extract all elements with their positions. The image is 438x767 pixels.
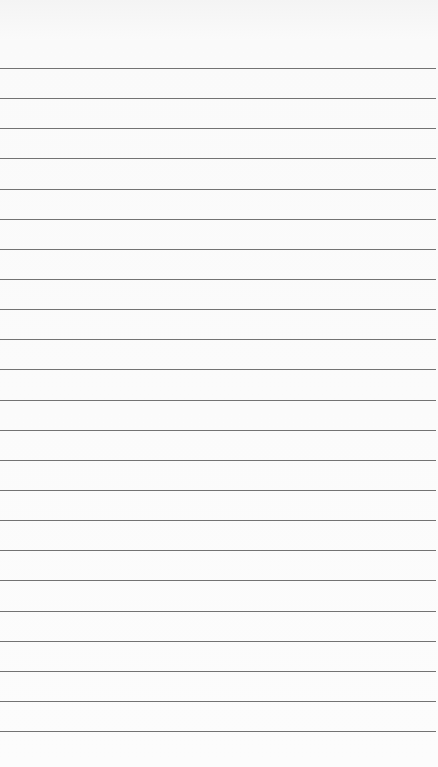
ruled-line	[0, 550, 436, 551]
ruled-line	[0, 158, 436, 159]
ruled-line	[0, 611, 436, 612]
ruled-line	[0, 701, 436, 702]
ruled-line	[0, 309, 436, 310]
ruled-line	[0, 400, 436, 401]
ruled-line	[0, 490, 436, 491]
lined-paper	[0, 0, 438, 767]
ruled-line	[0, 460, 436, 461]
ruled-line	[0, 731, 436, 732]
ruled-line	[0, 128, 436, 129]
ruled-line	[0, 580, 436, 581]
ruled-line	[0, 98, 436, 99]
ruled-line	[0, 279, 436, 280]
ruled-line	[0, 68, 436, 69]
ruled-line	[0, 430, 436, 431]
ruled-line	[0, 249, 436, 250]
ruled-line	[0, 339, 436, 340]
ruled-line	[0, 641, 436, 642]
ruled-line	[0, 189, 436, 190]
ruled-line	[0, 520, 436, 521]
ruled-line	[0, 219, 436, 220]
ruled-line	[0, 671, 436, 672]
ruled-line	[0, 369, 436, 370]
